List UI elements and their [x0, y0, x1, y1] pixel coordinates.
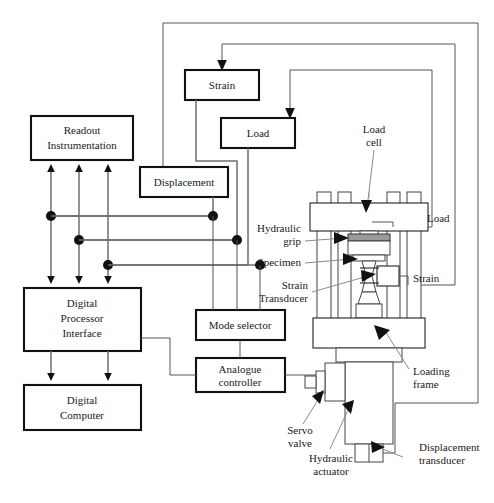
annotation-specimen: Specimen — [258, 256, 302, 268]
actuator-top-flange — [336, 348, 402, 362]
servo-valve-block — [325, 363, 345, 401]
block-processor-label-line2: Processor — [61, 312, 104, 324]
annotation-displacement-transducer-line2: transducer — [419, 454, 465, 466]
block-analogue-controller[interactable]: Analogue controller — [196, 358, 285, 392]
block-processor-label-line1: Digital — [67, 297, 98, 309]
annotation-strain-transducer-line1: Strain — [282, 279, 309, 291]
block-digital-processor-interface[interactable]: Digital Processor Interface — [24, 288, 141, 351]
block-analogue-label-line1: Analogue — [219, 363, 262, 375]
block-load[interactable]: Load — [221, 118, 295, 148]
block-load-label: Load — [247, 127, 270, 139]
block-mode-selector-label: Mode selector — [209, 319, 272, 331]
block-displacement-label: Displacement — [154, 176, 214, 188]
hydraulic-grip-upper-band — [348, 234, 390, 241]
annotation-servo-valve-line2: valve — [288, 437, 312, 449]
annotation-load-cell-line1: Load — [363, 123, 386, 135]
annotation-hydraulic-grip-line1: Hydraulic — [257, 222, 301, 234]
servo-valve-port — [305, 376, 316, 388]
specimen-lower-flare — [358, 292, 380, 304]
block-displacement[interactable]: Displacement — [140, 167, 228, 197]
block-readout-instrumentation[interactable]: Readout Instrumentation — [31, 116, 133, 160]
block-processor-label-line3: Interface — [62, 327, 101, 339]
servo-valve-collar — [316, 371, 325, 393]
annotation-loading-frame-line1: Loading — [413, 365, 450, 377]
annotation-load-cell-line2: cell — [366, 136, 382, 148]
block-digital-computer[interactable]: Digital Computer — [24, 385, 141, 430]
annotation-hydraulic-grip-line2: grip — [283, 235, 301, 247]
annotation-hydraulic-actuator-line2: actuator — [313, 465, 349, 477]
hydraulic-grip-lower-body — [356, 304, 382, 318]
lower-crosshead — [313, 318, 425, 348]
annotation-servo-valve-line1: Servo — [287, 424, 313, 436]
annotation-strain-transducer-line2: Transducer — [259, 292, 308, 304]
hydraulic-grip-upper-body — [348, 241, 390, 255]
testing-machine-schematic: Strain Load Displacement Readout Instrum… — [0, 0, 494, 503]
machine-assembly — [305, 192, 428, 462]
annotation-strain-signal: Strain — [413, 272, 440, 284]
block-strain-label: Strain — [209, 79, 236, 91]
block-mode-selector[interactable]: Mode selector — [196, 310, 285, 340]
leader-servo-valve — [303, 400, 318, 424]
hydraulic-grip-upper-collar — [353, 255, 385, 261]
block-readout-label-line1: Readout — [64, 124, 101, 136]
block-strain[interactable]: Strain — [185, 70, 259, 100]
block-computer-label-line1: Digital — [67, 394, 98, 406]
block-readout-label-line2: Instrumentation — [47, 139, 117, 151]
block-computer-label-line2: Computer — [60, 409, 104, 421]
displacement-bus-wire — [51, 197, 213, 216]
block-analogue-label-line2: controller — [219, 376, 262, 388]
top-crosshead — [310, 203, 428, 231]
processor-to-computer-group — [51, 351, 108, 377]
leader-load-cell — [367, 150, 374, 208]
figure-canvas: Strain Load Displacement Readout Instrum… — [0, 0, 494, 503]
annotation-load-signal: Load — [427, 212, 450, 224]
strain-transducer-body — [377, 266, 399, 286]
annotation-displacement-transducer-line1: Displacement — [419, 441, 479, 453]
load-bus-wire — [108, 148, 248, 265]
processor-to-analogue-wire — [141, 338, 196, 375]
annotation-hydraulic-actuator-line1: Hydraulic — [309, 452, 353, 464]
annotation-loading-frame-line2: frame — [413, 378, 439, 390]
